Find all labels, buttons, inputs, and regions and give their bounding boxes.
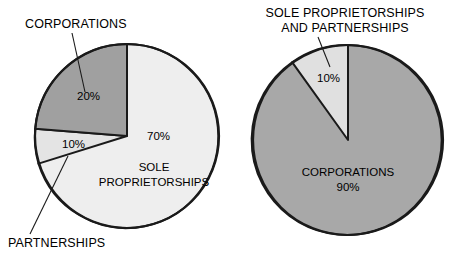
figure-canvas: CORPORATIONS 20% 10% PARTNERSHIPS 70% SO… — [0, 0, 454, 265]
right-inner-label: CORPORATIONS — [302, 166, 395, 178]
right-pie-chart: SOLE PROPRIETORSHIPS AND PARTNERSHIPS 10… — [252, 6, 443, 235]
left-inner-label-line1: SOLE — [139, 161, 170, 173]
left-inner-label-line2: PROPRIETORSHIPS — [99, 176, 210, 188]
left-pie-chart: CORPORATIONS 20% 10% PARTNERSHIPS 70% SO… — [8, 17, 219, 250]
pie-chart-figure: CORPORATIONS 20% 10% PARTNERSHIPS 70% SO… — [0, 0, 454, 265]
left-callout-partnerships: PARTNERSHIPS — [8, 236, 105, 250]
right-callout-line2: AND PARTNERSHIPS — [281, 21, 409, 35]
right-callout-line1: SOLE PROPRIETORSHIPS — [266, 6, 425, 20]
left-pct-partnerships: 10% — [62, 138, 85, 150]
left-pct-sole: 70% — [147, 130, 170, 142]
left-pct-corporations: 20% — [77, 90, 100, 102]
right-pct-small: 10% — [317, 72, 340, 84]
right-pct-inner: 90% — [336, 181, 359, 193]
left-callout-corporations: CORPORATIONS — [25, 17, 127, 31]
